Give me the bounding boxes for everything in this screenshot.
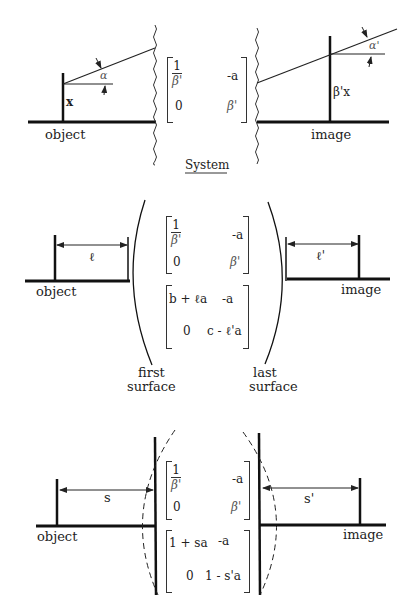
matrix-top-r1c1: 1 β' <box>172 60 182 87</box>
top-panel <box>28 25 397 173</box>
principal-plane-back <box>259 433 260 595</box>
first-surface-curve <box>133 200 152 365</box>
last-surface-label-2: surface <box>249 381 298 393</box>
matrix-mid1-r1c2: -a <box>232 228 243 242</box>
matrix-bot2-r1c1: 1 + sa <box>169 536 208 550</box>
angle-arrow-top-image <box>362 27 367 37</box>
caption-system: System <box>185 159 229 171</box>
angle-alpha-label: α <box>100 70 107 82</box>
matrix-bracket-right <box>241 57 247 123</box>
matrix-mid1-r1c1: 1 β' <box>171 219 181 246</box>
matrix-bot1-r1c1: 1 β' <box>171 464 181 491</box>
s-label: s <box>104 492 111 504</box>
last-surface-label-1: last <box>253 367 277 379</box>
first-surface-label-1: first <box>138 367 165 379</box>
angle-arrow-bottom <box>104 86 105 95</box>
matrix-bracket-right <box>244 461 250 520</box>
system-boundary-right <box>256 28 259 164</box>
matrix-bot2-r2c2: 1 - s'a <box>205 569 241 583</box>
matrix-bot1-r1c2: -a <box>232 472 243 486</box>
system-boundary-left <box>154 25 157 165</box>
principal-plane-front <box>155 437 156 595</box>
matrix-top-r2c2: β' <box>227 99 237 113</box>
matrix-bracket-right <box>243 285 249 349</box>
object-ray <box>63 48 155 84</box>
angle-arrow-top <box>96 58 101 68</box>
angle-arrow-bottom-image <box>369 57 371 67</box>
object-label-middle: object <box>36 286 76 298</box>
matrix-mid2-r2c1: 0 <box>183 324 191 338</box>
middle-panel <box>25 200 390 365</box>
matrix-mid2-r2c2: c - ℓ'a <box>207 324 242 339</box>
object-height-label: x <box>66 96 73 108</box>
s-prime-label: s' <box>304 493 314 505</box>
image-label-bottom: image <box>343 529 383 541</box>
object-label-bottom: object <box>37 531 77 543</box>
matrix-mid1-r2c1: 0 <box>173 255 181 269</box>
l-prime-label: ℓ' <box>316 250 325 262</box>
matrix-bot1-r2c1: 0 <box>173 500 181 514</box>
object-label-top: object <box>45 129 85 141</box>
matrix-bot2-r1c2: -a <box>218 534 229 548</box>
image-height-label: β'x <box>333 86 350 98</box>
matrix-mid2-r1c1: b + ℓa <box>169 292 207 307</box>
matrix-bot1-r2c2: β' <box>231 500 241 514</box>
last-surface-curve <box>265 202 282 364</box>
image-ray <box>257 29 397 83</box>
matrix-mid1-r2c2: β' <box>230 255 240 269</box>
l-label: ℓ <box>89 251 95 263</box>
matrix-bot2-r2c1: 0 <box>186 569 194 583</box>
angle-alpha-prime-label: α' <box>369 40 379 52</box>
matrix-bracket-right <box>244 530 250 593</box>
matrix-top-r1c2: -a <box>227 69 238 83</box>
matrix-top-r2c1: 0 <box>175 99 183 113</box>
matrix-mid2-r1c2: -a <box>222 292 233 306</box>
image-label-middle: image <box>341 284 381 296</box>
image-label-top: image <box>311 129 351 141</box>
first-surface-label-2: surface <box>127 381 176 393</box>
matrix-bracket-right <box>243 216 249 274</box>
